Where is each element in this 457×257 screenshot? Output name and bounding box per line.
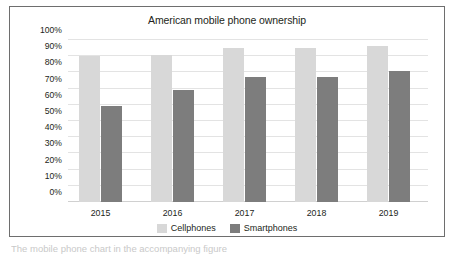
bar-cellphones-2017 — [223, 48, 244, 202]
bar-series-layer: 20152016201720182019 — [68, 40, 428, 202]
bar-cellphones-2016 — [151, 55, 172, 202]
chart-legend: CellphonesSmartphones — [10, 223, 444, 233]
y-axis-tick-label: 20% — [45, 155, 62, 165]
legend-item-cellphones[interactable]: Cellphones — [157, 223, 216, 233]
x-axis-tick-label: 2016 — [151, 208, 194, 218]
bar-cellphones-2019 — [367, 46, 388, 202]
y-axis-tick-label: 60% — [45, 90, 62, 100]
bar-group: 2016 — [151, 40, 194, 202]
chart-figure-frame: American mobile phone ownership 100%90%8… — [9, 6, 445, 237]
bar-smartphones-2019 — [389, 71, 410, 202]
chart-title: American mobile phone ownership — [10, 14, 444, 26]
y-axis-tick-label: 90% — [45, 41, 62, 51]
bar-smartphones-2018 — [317, 77, 338, 202]
legend-label: Cellphones — [171, 223, 216, 233]
bar-smartphones-2015 — [101, 106, 122, 202]
x-axis-tick-label: 2015 — [79, 208, 122, 218]
x-axis-tick-label: 2019 — [367, 208, 410, 218]
legend-swatch-icon — [230, 224, 240, 233]
x-axis-tick-label: 2017 — [223, 208, 266, 218]
bar-smartphones-2017 — [245, 77, 266, 202]
bar-group: 2018 — [295, 40, 338, 202]
y-axis-tick-label: 40% — [45, 122, 62, 132]
legend-item-smartphones[interactable]: Smartphones — [230, 223, 298, 233]
bar-group: 2017 — [223, 40, 266, 202]
legend-swatch-icon — [157, 224, 167, 233]
bar-group: 2015 — [79, 40, 122, 202]
y-axis-tick-label: 50% — [45, 106, 62, 116]
x-axis-tick-label: 2018 — [295, 208, 338, 218]
plot-area: 100%90%80%70%60%50%40%30%20%10%0% 201520… — [68, 40, 428, 202]
bar-cellphones-2018 — [295, 48, 316, 202]
y-axis-tick-label: 10% — [45, 171, 62, 181]
y-axis-tick-label: 30% — [45, 138, 62, 148]
y-axis-tick-label: 100% — [40, 25, 62, 35]
page-caption-text: The mobile phone chart in the accompanyi… — [11, 243, 441, 254]
y-axis-tick-label: 70% — [45, 74, 62, 84]
y-axis-tick-label: 0% — [50, 187, 62, 197]
legend-label: Smartphones — [244, 223, 298, 233]
y-axis-tick-label: 80% — [45, 57, 62, 67]
bar-smartphones-2016 — [173, 90, 194, 202]
bar-group: 2019 — [367, 40, 410, 202]
bar-cellphones-2015 — [79, 56, 100, 202]
